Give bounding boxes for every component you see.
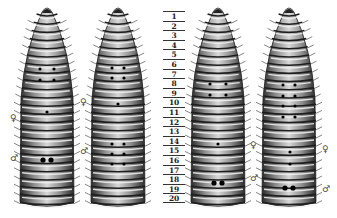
genital-pore: [281, 83, 284, 86]
genital-pore: [38, 67, 41, 70]
female-symbol: ♀: [80, 98, 87, 107]
genital-pore: [293, 115, 296, 118]
genital-pore: [293, 104, 296, 107]
segment-number: 8: [163, 78, 185, 88]
segment-number: 17: [163, 165, 185, 175]
genital-pore: [110, 66, 113, 69]
female-symbol: ♀: [250, 141, 257, 150]
worm: [14, 8, 80, 207]
segment-number: 14: [163, 136, 185, 146]
genital-pore: [122, 142, 125, 145]
segment-number: 4: [163, 40, 185, 50]
genital-pore: [45, 110, 48, 113]
segment-number-column: 1234567891011121314151617181920: [163, 11, 185, 203]
segment-number: 6: [163, 59, 185, 69]
male-symbol: ♂: [322, 185, 330, 194]
segment-number: 2: [163, 21, 185, 31]
genital-pore: [208, 82, 211, 85]
genital-pore: [208, 93, 211, 96]
genital-pore: [219, 180, 224, 185]
genital-pore: [293, 83, 296, 86]
worm: [256, 8, 322, 207]
genital-pore: [290, 185, 295, 190]
male-symbol: ♂: [80, 147, 88, 156]
worm: [185, 8, 251, 207]
genital-pore: [216, 142, 219, 145]
segment-number: 12: [163, 117, 185, 127]
segment-number: 3: [163, 30, 185, 40]
segment-number: 19: [163, 184, 185, 194]
segment-number: 5: [163, 49, 185, 59]
genital-pore: [52, 78, 55, 81]
genital-pore: [116, 102, 119, 105]
female-symbol: ♀: [322, 145, 329, 154]
segment-number: 11: [163, 107, 185, 117]
female-symbol: ♀: [10, 114, 17, 123]
segment-number: 9: [163, 88, 185, 98]
genital-pore: [110, 162, 113, 165]
genital-pore: [110, 76, 113, 79]
segment-number: 15: [163, 145, 185, 155]
genital-pore: [110, 142, 113, 145]
genital-pore: [224, 82, 227, 85]
genital-pore: [281, 104, 284, 107]
male-symbol: ♂: [250, 174, 258, 183]
male-symbol: ♂: [10, 154, 18, 163]
worm: [85, 8, 151, 207]
genital-pore: [48, 157, 53, 162]
genital-pore: [52, 67, 55, 70]
genital-pore: [288, 150, 291, 153]
genital-pore: [38, 78, 41, 81]
segment-number: 16: [163, 155, 185, 165]
segment-number: 10: [163, 97, 185, 107]
genital-pore: [122, 162, 125, 165]
genital-pore: [40, 157, 45, 162]
genital-pore: [288, 162, 291, 165]
genital-pore: [293, 94, 296, 97]
genital-pore: [122, 66, 125, 69]
segment-number: 1: [163, 11, 185, 21]
genital-pore: [122, 152, 125, 155]
genital-pore: [211, 180, 216, 185]
genital-pore: [224, 93, 227, 96]
genital-pore: [281, 94, 284, 97]
genital-pore: [110, 152, 113, 155]
earthworm-figure: 1234567891011121314151617181920 ♀♂♀♂♀♂♀♂: [0, 0, 337, 218]
segment-number: 13: [163, 126, 185, 136]
segment-number: 7: [163, 69, 185, 79]
segment-number: 20: [163, 193, 185, 203]
segment-number: 18: [163, 174, 185, 184]
genital-pore: [122, 76, 125, 79]
genital-pore: [281, 115, 284, 118]
genital-pore: [282, 185, 287, 190]
